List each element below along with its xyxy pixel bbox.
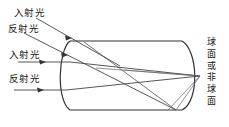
optics-ray-diagram: 入射光 反射光 入射光 反射光 球面或非球面 <box>0 0 229 127</box>
internal-reflection-ray-line <box>84 42 176 110</box>
reflected-lower-ray-arrowhead <box>37 88 44 93</box>
label-surface-type-vertical: 球面或非球面 <box>206 37 217 108</box>
incident-lower-ray-arrowhead <box>39 60 46 65</box>
internal-reflection-ray <box>84 42 176 110</box>
diagram-canvas <box>0 0 229 127</box>
label-incident-light-lower: 入射光 <box>9 50 40 60</box>
incident-lower-ray-refracted <box>70 62 200 76</box>
element-left-convex-surface <box>60 41 70 110</box>
optical-element-outline <box>60 41 195 110</box>
label-incident-light-upper: 入射光 <box>14 8 45 18</box>
reflected-lower-ray <box>14 76 200 93</box>
label-reflected-light-upper: 反射光 <box>8 24 39 34</box>
converging-ray-b <box>124 70 200 76</box>
label-reflected-light-lower: 反射光 <box>9 74 40 84</box>
reflected-upper-ray <box>24 33 176 110</box>
converging-ray-d <box>168 76 200 110</box>
reflected-upper-ray-line <box>24 33 176 110</box>
